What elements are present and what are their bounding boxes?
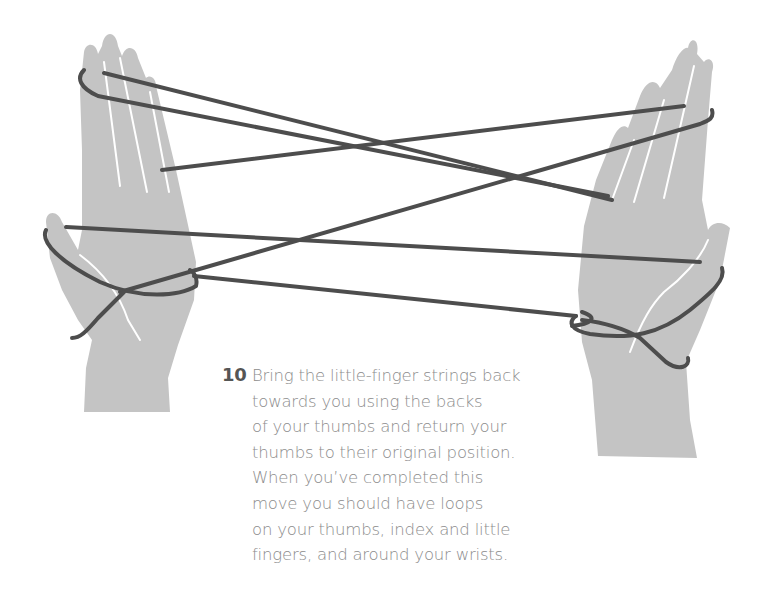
instruction-caption: 10Bring the little-finger strings back t… bbox=[222, 362, 582, 568]
caption-line-6: move you should have loops bbox=[222, 491, 582, 517]
step-number: 10 bbox=[222, 362, 252, 388]
caption-line-2: towards you using the backs bbox=[222, 389, 582, 415]
caption-line-3: of your thumbs and return your bbox=[222, 414, 582, 440]
right-hand bbox=[578, 40, 730, 458]
caption-line-1: 10Bring the little-finger strings back bbox=[222, 362, 582, 389]
caption-line-4: thumbs to their original position. bbox=[222, 440, 582, 466]
caption-line-5: When you’ve completed this bbox=[222, 465, 582, 491]
caption-line-7: on your thumbs, index and little bbox=[222, 517, 582, 543]
caption-line-8: fingers, and around your wrists. bbox=[222, 542, 582, 568]
